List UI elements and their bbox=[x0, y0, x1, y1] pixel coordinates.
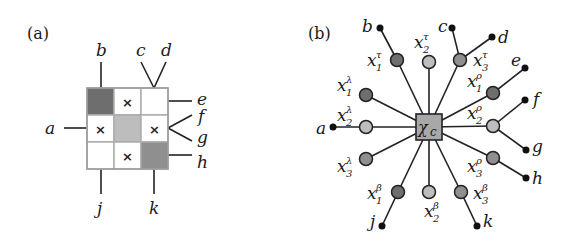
leg-endpoint bbox=[523, 175, 530, 182]
node-superscript: β bbox=[481, 182, 488, 193]
leg-endpoint bbox=[379, 223, 386, 230]
node-subscript: 2 bbox=[475, 115, 482, 126]
grid-cell bbox=[114, 115, 141, 142]
center-symbol: χ bbox=[417, 118, 429, 137]
node-subscript: 3 bbox=[476, 168, 482, 179]
label-d: d bbox=[161, 40, 172, 60]
panel-b-label: (b) bbox=[308, 24, 331, 43]
center-tensor: χ c bbox=[416, 114, 442, 140]
node-superscript: τ bbox=[423, 31, 429, 42]
leg-endpoint bbox=[523, 147, 530, 154]
node-x2l bbox=[360, 121, 373, 134]
cross-mark: × bbox=[95, 122, 106, 137]
node-x2r bbox=[487, 120, 500, 133]
node-subscript: 1 bbox=[376, 62, 382, 73]
grid-cell bbox=[141, 142, 168, 169]
grid-cell bbox=[87, 142, 114, 169]
grid-cell bbox=[141, 88, 168, 115]
label-h: h bbox=[197, 152, 208, 172]
label-d2: d bbox=[498, 27, 509, 47]
node-superscript: λ bbox=[345, 74, 352, 85]
node-superscript: τ bbox=[482, 49, 488, 60]
label-j: j bbox=[93, 198, 103, 218]
node-superscript: τ bbox=[376, 49, 382, 60]
node-subscript: 1 bbox=[346, 87, 352, 98]
node-subscript: 3 bbox=[482, 62, 488, 73]
node-x2t bbox=[423, 56, 436, 69]
label-c: c bbox=[136, 40, 146, 60]
label-f2: f bbox=[531, 89, 542, 109]
label-g2: g bbox=[532, 136, 543, 156]
node-superscript: ρ bbox=[475, 155, 482, 166]
panel-a: (a) ×××× b c d a e f g h j k bbox=[27, 24, 208, 218]
label-f: f bbox=[196, 106, 207, 126]
node-subscript: 3 bbox=[346, 168, 352, 179]
node-x3r bbox=[487, 152, 500, 165]
leg-endpoint bbox=[449, 25, 456, 32]
node-subscript: 2 bbox=[432, 213, 439, 224]
panel-a-label: (a) bbox=[27, 24, 49, 43]
label-k2: k bbox=[483, 211, 493, 231]
label-h2: h bbox=[532, 168, 543, 188]
leg-endpoint bbox=[489, 34, 496, 41]
label-a: a bbox=[45, 118, 55, 138]
label-b: b bbox=[96, 40, 107, 60]
node-superscript: β bbox=[432, 200, 439, 211]
figure: (a) ×××× b c d a e f g h j k (b) χ c x1τ… bbox=[0, 0, 573, 250]
node-x2b bbox=[423, 186, 436, 199]
node-subscript: 3 bbox=[482, 195, 488, 206]
label-a2: a bbox=[316, 118, 326, 138]
cross-mark: × bbox=[122, 95, 133, 110]
leg-endpoint bbox=[474, 223, 481, 230]
leg-endpoint bbox=[522, 97, 529, 104]
cross-mark: × bbox=[149, 122, 160, 137]
grid-3x3: ×××× bbox=[87, 88, 168, 169]
node-superscript: λ bbox=[345, 104, 352, 115]
node-x1b bbox=[392, 186, 405, 199]
label-g: g bbox=[197, 127, 208, 147]
center-subscript: c bbox=[430, 125, 437, 139]
leg-c-line bbox=[141, 62, 154, 88]
label-j2: j bbox=[366, 211, 376, 231]
leg-d-line bbox=[154, 62, 166, 88]
node-x3b bbox=[455, 186, 468, 199]
grid-cell bbox=[87, 88, 114, 115]
node-superscript: ρ bbox=[475, 70, 482, 81]
leg-g-line bbox=[168, 128, 192, 141]
label-b2: b bbox=[362, 16, 373, 36]
node-x3t bbox=[454, 54, 467, 67]
node-x1r bbox=[487, 87, 500, 100]
node-x1t bbox=[391, 54, 404, 67]
node-subscript: 2 bbox=[345, 117, 352, 128]
node-subscript: 1 bbox=[376, 195, 382, 206]
leg-endpoint bbox=[330, 124, 337, 131]
cross-mark: × bbox=[122, 149, 133, 164]
label-e2: e bbox=[511, 50, 521, 70]
node-superscript: β bbox=[375, 182, 382, 193]
node-superscript: ρ bbox=[475, 102, 482, 113]
node-superscript: λ bbox=[345, 155, 352, 166]
panel-b: (b) χ c x1τx2τx3τx1λx2λx3λx1ρx2ρx3ρx1βx2… bbox=[308, 16, 543, 231]
label-k: k bbox=[149, 198, 159, 218]
leg-endpoint bbox=[522, 65, 529, 72]
node-subscript: 1 bbox=[476, 83, 482, 94]
leg-endpoint bbox=[377, 25, 384, 32]
node-x3l bbox=[360, 153, 373, 166]
label-c2: c bbox=[438, 16, 448, 36]
leg-f-line bbox=[168, 115, 192, 128]
node-x1l bbox=[360, 89, 373, 102]
node-subscript: 2 bbox=[422, 44, 429, 55]
